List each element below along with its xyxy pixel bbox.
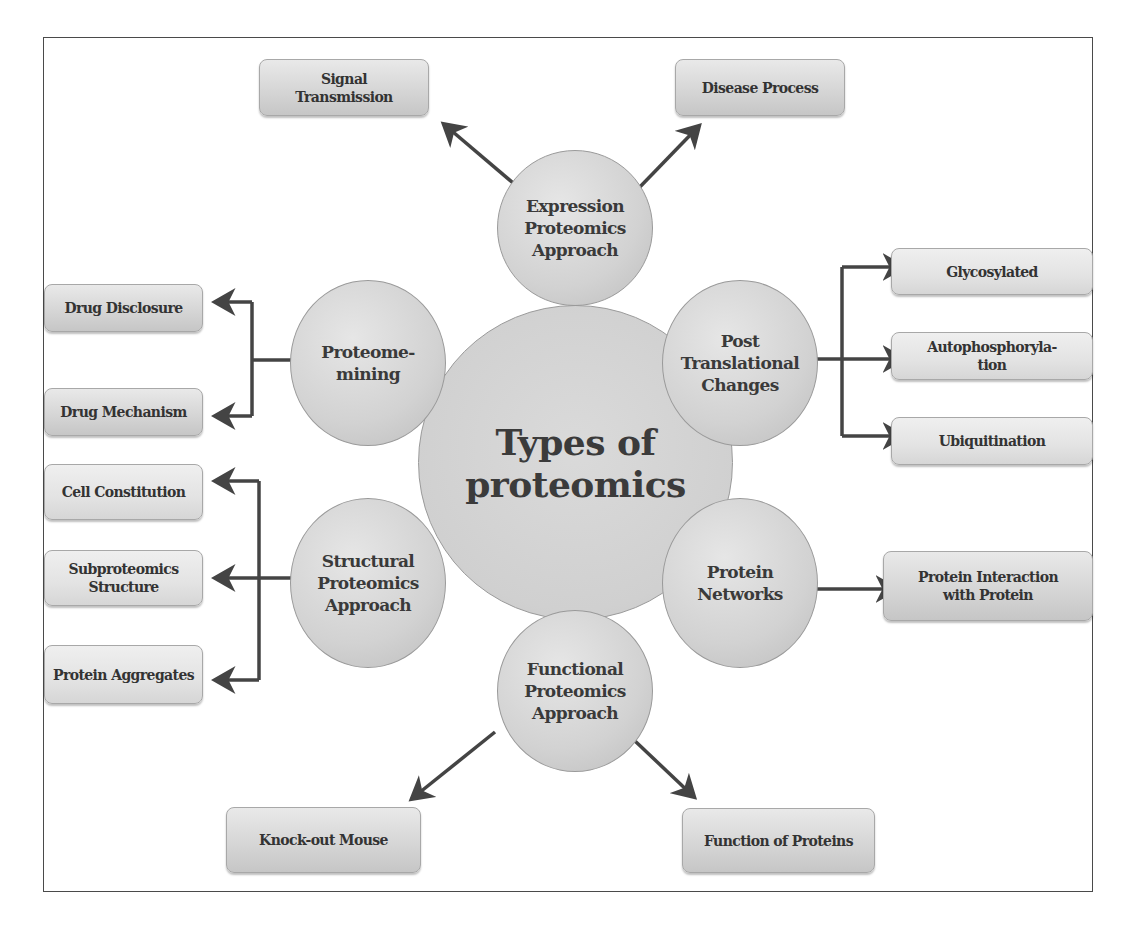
box-label: Glycosylated [946, 263, 1038, 281]
box-autophosphorylation: Autophosphoryla- tion [891, 332, 1093, 380]
box-label: Drug Disclosure [64, 299, 182, 317]
node-proteome-mining: Proteome- mining [290, 280, 446, 446]
box-label: Subproteomics Structure [68, 560, 178, 596]
central-topic-label: Types of proteomics [465, 421, 686, 505]
node-label: Proteome- mining [321, 341, 415, 385]
box-ubiquitination: Ubiquitination [891, 417, 1093, 465]
box-label: Cell Constitution [62, 483, 186, 501]
box-protein-interaction-with-protein: Protein Interaction with Protein [883, 551, 1093, 621]
arrow-to-disease-process [636, 128, 697, 191]
box-label: Ubiquitination [939, 432, 1046, 450]
box-glycosylated: Glycosylated [891, 248, 1093, 295]
box-drug-disclosure: Drug Disclosure [44, 284, 203, 332]
node-label: Functional Proteomics Approach [524, 658, 625, 724]
box-subproteomics-structure: Subproteomics Structure [44, 550, 203, 606]
node-structural-proteomics: Structural Proteomics Approach [290, 498, 446, 668]
box-label: Knock-out Mouse [259, 831, 388, 849]
box-cell-constitution: Cell Constitution [44, 464, 203, 520]
node-protein-networks: Protein Networks [662, 498, 818, 668]
node-label: Structural Proteomics Approach [317, 550, 418, 616]
box-drug-mechanism: Drug Mechanism [44, 388, 203, 436]
arrow-to-signal-transmission [446, 126, 519, 188]
box-label: Protein Interaction with Protein [918, 568, 1058, 604]
box-knock-out-mouse: Knock-out Mouse [226, 807, 421, 873]
box-protein-aggregates: Protein Aggregates [44, 645, 203, 704]
arrow-to-function-of-proteins [635, 741, 692, 795]
node-post-translational-changes: Post Translational Changes [662, 280, 818, 446]
node-label: Expression Proteomics Approach [524, 195, 625, 261]
box-label: Drug Mechanism [60, 403, 186, 421]
box-label: Autophosphoryla- tion [927, 338, 1056, 374]
box-label: Disease Process [702, 79, 818, 97]
node-label: Protein Networks [697, 561, 783, 605]
box-signal-transmission: Signal Transmission [259, 59, 429, 116]
box-label: Signal Transmission [295, 70, 392, 106]
arrow-to-knock-out-mouse [414, 732, 495, 797]
node-functional-proteomics: Functional Proteomics Approach [497, 610, 653, 772]
box-function-of-proteins: Function of Proteins [682, 808, 875, 873]
box-disease-process: Disease Process [675, 59, 845, 116]
box-label: Function of Proteins [704, 832, 853, 850]
node-expression-proteomics: Expression Proteomics Approach [497, 150, 653, 306]
node-label: Post Translational Changes [681, 330, 799, 396]
box-label: Protein Aggregates [53, 666, 194, 684]
